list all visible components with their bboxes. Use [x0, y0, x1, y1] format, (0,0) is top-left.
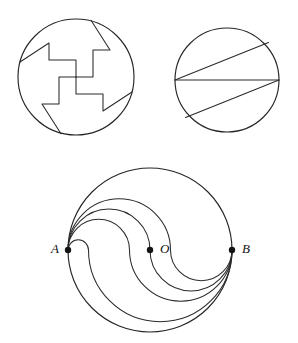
figure-2-chorded-circle — [175, 28, 279, 132]
point-b-label: B — [242, 241, 250, 256]
figure-1-arm-lower-left — [42, 77, 76, 134]
point-o-label: O — [160, 241, 170, 256]
point-o-dot — [147, 247, 153, 253]
figure-1-arm-upper-right — [76, 20, 110, 77]
figure-1-arm-upper-left — [20, 43, 76, 77]
figure-2-upper-chord — [175, 43, 269, 81]
figure-1-arm-lower-right — [76, 77, 132, 111]
figure-3-s-curve-circle: A O B — [50, 168, 250, 332]
figure-3-s-curve-2 — [68, 219, 232, 301]
figure-canvas: A O B — [0, 0, 298, 343]
figure-3-s-curve-4 — [68, 199, 232, 281]
point-a-label: A — [50, 241, 59, 256]
figure-1-pinwheel-circle — [18, 19, 134, 135]
figure-sheet: A O B — [0, 0, 298, 343]
figure-2-lower-chord — [186, 80, 280, 118]
point-b-dot — [229, 247, 235, 253]
point-a-dot — [65, 247, 71, 253]
